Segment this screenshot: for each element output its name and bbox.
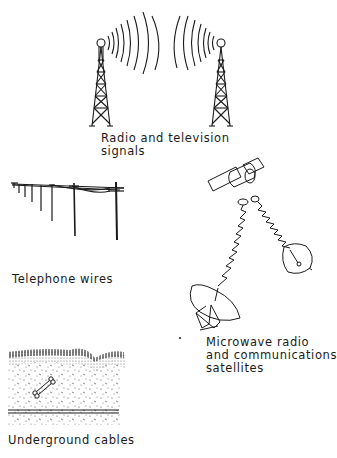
telephone-label-line-1: Telephone wires — [12, 273, 113, 286]
microwave-label: Microwave radio and communications satel… — [206, 336, 337, 375]
underground-label-line-1: Underground cables — [8, 434, 135, 447]
underground-label: Underground cables — [8, 434, 135, 447]
radio-tv-label: Radio and television signals — [101, 132, 230, 158]
microwave-label-line-3: satellites — [206, 362, 337, 375]
telephone-label: Telephone wires — [12, 273, 113, 286]
radio-tv-label-line-2: signals — [101, 145, 230, 158]
